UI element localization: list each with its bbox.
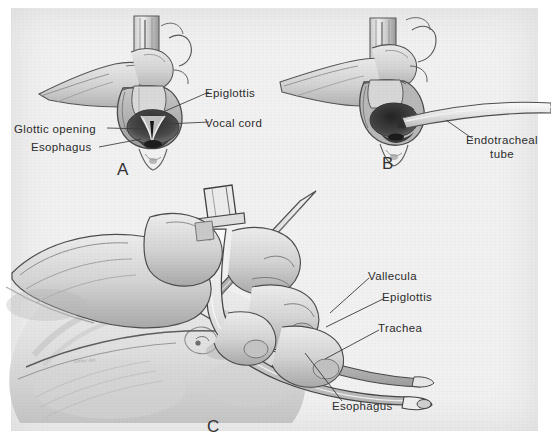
label-endotracheal-tube-line1: Endotracheal xyxy=(466,134,538,146)
label-esophagus-c: Esophagus xyxy=(332,399,393,413)
label-epiglottis-a: Epiglottis xyxy=(205,86,255,100)
leader-epiglottis-c xyxy=(326,299,383,327)
leader-vallecula-c xyxy=(330,278,369,313)
panel-letter-c: C xyxy=(207,417,220,437)
label-endotracheal-tube-line2: tube xyxy=(490,148,514,160)
figure-root: Epiglottis Vocal cord Glottic opening Es… xyxy=(0,0,551,442)
panel-c-illustration xyxy=(0,183,527,442)
label-esophagus-a: Esophagus xyxy=(31,140,92,154)
panel-letter-b: B xyxy=(382,154,394,174)
label-vallecula-c: Vallecula xyxy=(368,269,417,283)
label-endotracheal-tube-b: Endotracheal tube xyxy=(466,133,538,161)
chin-a xyxy=(139,149,167,170)
label-glottic-opening-a: Glottic opening xyxy=(14,122,96,136)
label-epiglottis-c: Epiglottis xyxy=(382,290,432,304)
label-vocal-cord-a: Vocal cord xyxy=(205,116,262,130)
panel-letter-a: A xyxy=(117,160,129,180)
label-trachea-c: Trachea xyxy=(378,321,422,335)
scanned-plate: Epiglottis Vocal cord Glottic opening Es… xyxy=(11,8,538,431)
